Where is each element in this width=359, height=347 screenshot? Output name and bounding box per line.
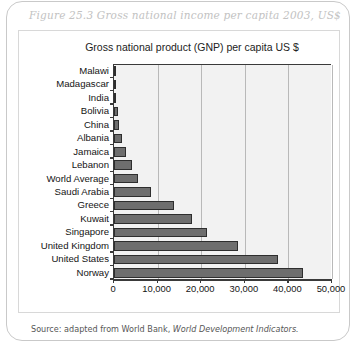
bar <box>114 268 303 278</box>
category-label: China <box>84 118 109 131</box>
plot-area: MalawiMadagascarIndiaBoliviaChinaAlbania… <box>113 64 331 279</box>
bar <box>114 147 126 157</box>
bar-row: China <box>114 119 331 132</box>
bar-row: Albania <box>114 132 331 145</box>
x-tick-label: 40,000 <box>273 283 302 294</box>
bar-row: Bolivia <box>114 105 331 118</box>
bar <box>114 228 207 238</box>
bar <box>114 160 132 170</box>
gridline <box>332 65 333 279</box>
bar <box>114 187 151 197</box>
bar-row: Madagascar <box>114 78 331 91</box>
bar-row: Saudi Arabia <box>114 186 331 199</box>
category-label: Madagascar <box>56 77 109 90</box>
bar <box>114 241 238 251</box>
bar <box>114 174 138 184</box>
bar <box>114 214 192 224</box>
chart-panel: Gross national product (GNP) per capita … <box>18 30 340 313</box>
category-label: World Average <box>46 172 109 185</box>
x-tick-label: 50,000 <box>317 283 346 294</box>
bar <box>114 93 116 103</box>
source-publication: World Development Indicators. <box>173 324 299 334</box>
category-label: United States <box>51 252 109 265</box>
category-label: Bolivia <box>81 104 109 117</box>
figure-title: Figure 25.3 Gross national income per ca… <box>29 9 341 21</box>
category-label: Saudi Arabia <box>55 185 109 198</box>
axis-baseline <box>113 279 332 281</box>
x-tick-label: 20,000 <box>186 283 215 294</box>
category-label: India <box>88 91 109 104</box>
bar <box>114 134 122 144</box>
bar-row: Malawi <box>114 65 331 78</box>
bar <box>114 66 116 76</box>
bar <box>114 80 116 90</box>
category-label: Greece <box>78 198 109 211</box>
bar <box>114 255 278 265</box>
chart-header-title: Gross national product (GNP) per capita … <box>19 41 339 53</box>
x-tick-label: 30,000 <box>229 283 258 294</box>
category-label: Kuwait <box>80 212 109 225</box>
bar-row: Singapore <box>114 226 331 239</box>
category-label: United Kingdom <box>41 239 109 252</box>
bar <box>114 201 174 211</box>
bar-row: India <box>114 92 331 105</box>
figure-card: Figure 25.3 Gross national income per ca… <box>6 1 350 341</box>
bar-row: Norway <box>114 267 331 280</box>
category-label: Malawi <box>79 64 109 77</box>
category-label: Albania <box>77 131 109 144</box>
bar-row: United Kingdom <box>114 240 331 253</box>
bar <box>114 120 119 130</box>
bar-row: Jamaica <box>114 146 331 159</box>
bar-row: United States <box>114 253 331 266</box>
source-note: Source: adapted from World Bank, World D… <box>31 324 299 334</box>
bar-row: Greece <box>114 199 331 212</box>
bar-row: Kuwait <box>114 213 331 226</box>
category-label: Norway <box>76 266 109 279</box>
category-label: Lebanon <box>72 158 109 171</box>
bar-row: Lebanon <box>114 159 331 172</box>
source-prefix: Source: adapted from World Bank, <box>31 324 170 334</box>
bar <box>114 107 118 117</box>
category-label: Singapore <box>65 225 109 238</box>
x-tick-label: 0 <box>110 283 115 294</box>
x-tick-label: 10,000 <box>142 283 171 294</box>
category-label: Jamaica <box>73 145 109 158</box>
bar-row: World Average <box>114 173 331 186</box>
